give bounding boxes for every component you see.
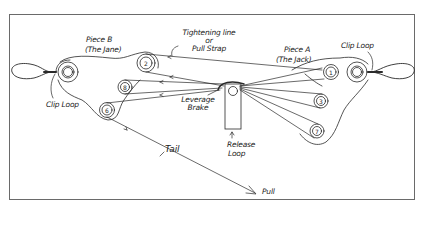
leverage-brake-label-2: Brake [178,104,218,112]
pull-label: Pull [262,188,275,196]
piece-a-label: Piece A [284,46,310,54]
pulley-7-label: 7 [315,128,319,135]
pulley-2-label: 2 [144,60,148,67]
pulley-3-label: 3 [319,98,323,105]
piece-a-sublabel: (The Jack) [276,56,311,64]
tail-label: Tail [165,144,179,154]
tightening-line-label-3: Pull Strap [178,45,240,53]
pulley-6-label: 6 [105,107,109,114]
clip-loop-left-label: Clip Loop [46,101,79,109]
release-loop-label-1: Release [227,141,255,149]
right-clip-loop [368,63,414,78]
piece-a-anchor-pulley [347,62,367,82]
clip-loop-right-label: Clip Loop [341,42,374,50]
pulley-8-label: 8 [123,84,127,91]
rope-lines [107,54,324,194]
release-loop-label-2: Loop [228,150,245,158]
piece-b-sublabel: (The Jane) [85,46,121,54]
piece-b-label: Piece B [86,36,112,44]
pulley-numbers: 2 8 6 1 3 7 [105,60,333,135]
pulley-1-label: 1 [329,69,333,76]
left-clip-loop [12,63,56,78]
piece-b-anchor-pulley [58,62,78,82]
